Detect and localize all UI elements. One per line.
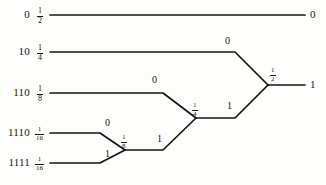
fraction-one-sixteenth-b: 1 16 xyxy=(35,156,44,172)
leaf-code-1110: 1110 xyxy=(0,127,30,138)
fraction-node-one-eighth: 1 8 xyxy=(121,134,127,150)
leaf-code-110: 110 xyxy=(0,87,30,98)
tree-edges xyxy=(0,0,326,185)
leaf-code-10: 10 xyxy=(0,46,30,57)
edge-label-1110-zero: 0 xyxy=(105,118,110,128)
node-prob-quarter: 1 4 xyxy=(192,101,198,118)
edge-label-quarter-one: 1 xyxy=(227,101,232,111)
edge-label-110-zero: 0 xyxy=(152,75,157,85)
edge-leaf-10 xyxy=(50,52,268,85)
edge-leaf-110 xyxy=(50,93,196,118)
leaf-prob-0: 1 2 xyxy=(37,7,43,25)
edge-label-1111-one: 1 xyxy=(105,149,110,159)
edge-label-eighth-one: 1 xyxy=(157,134,162,144)
root-output-zero: 0 xyxy=(310,9,316,20)
edge-leaf-1111 xyxy=(50,150,125,163)
fraction-node-one-half: 1 2 xyxy=(270,67,276,83)
fraction-one-half: 1 2 xyxy=(37,7,43,25)
leaf-prob-1111: 1 16 xyxy=(35,155,44,172)
node-prob-eighth: 1 8 xyxy=(121,133,127,150)
node-prob-half: 1 2 xyxy=(270,66,276,83)
edge-label-10-zero: 0 xyxy=(225,36,230,46)
fraction-one-sixteenth-a: 1 16 xyxy=(35,126,44,142)
fraction-node-one-quarter: 1 4 xyxy=(192,102,198,118)
leaf-prob-1110: 1 16 xyxy=(35,125,44,142)
fraction-one-quarter: 1 4 xyxy=(37,44,43,62)
fraction-one-eighth: 1 8 xyxy=(37,85,43,103)
leaf-code-1111: 1111 xyxy=(0,157,30,168)
huffman-tree-figure: 0 10 110 1110 1111 1 2 1 4 1 8 1 16 1 16 xyxy=(0,0,326,185)
edge-quarter-to-half xyxy=(196,85,268,118)
root-output-one: 1 xyxy=(310,79,316,90)
leaf-code-0: 0 xyxy=(0,9,30,20)
leaf-prob-110: 1 8 xyxy=(37,85,43,103)
edge-leaf-1110 xyxy=(50,133,125,150)
leaf-prob-10: 1 4 xyxy=(37,44,43,62)
